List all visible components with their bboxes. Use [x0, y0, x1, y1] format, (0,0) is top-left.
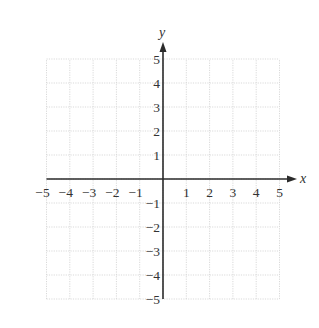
x-tick-label: −2	[105, 185, 119, 200]
x-axis-arrow-icon	[287, 176, 297, 183]
y-tick-label: 3	[153, 100, 160, 115]
x-tick-label: 1	[183, 185, 190, 200]
x-tick-label: 4	[253, 185, 260, 200]
x-tick-label: −4	[59, 185, 74, 200]
x-axis-label: x	[299, 171, 307, 186]
axes: x y	[47, 25, 308, 299]
x-tick-label: −1	[129, 185, 143, 200]
y-tick-label: −1	[146, 196, 160, 211]
y-tick-label: 2	[153, 124, 160, 139]
y-axis-arrow-icon	[160, 42, 167, 52]
y-tick-label: −2	[146, 220, 160, 235]
y-axis-label: y	[157, 25, 166, 40]
x-tick-label: −5	[35, 185, 50, 200]
y-tick-label: −4	[146, 268, 161, 283]
x-tick-label: −3	[82, 185, 97, 200]
x-tick-label: 3	[230, 185, 237, 200]
x-tick-label: 2	[206, 185, 213, 200]
coordinate-plane: x y −5−4−3−2−112345 −5−4−3−2−112345	[0, 0, 319, 328]
x-tick-label: 5	[276, 185, 283, 200]
y-tick-label: 5	[153, 52, 160, 67]
y-tick-label: 4	[153, 76, 160, 91]
y-tick-label: 1	[153, 148, 160, 163]
y-tick-label: −3	[146, 244, 161, 259]
y-tick-label: −5	[146, 292, 161, 307]
